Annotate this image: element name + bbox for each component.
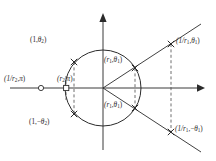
point-r1-neg-theta1: [132, 105, 138, 111]
label-1-neg-theta2: (1,−θ2): [29, 119, 49, 126]
label-r2-pi: (r2,π): [57, 76, 73, 83]
ray-lower-theta1: [103, 88, 201, 152]
point-inv-r2-pi-marker: [38, 85, 43, 90]
ray-upper-theta1: [103, 24, 201, 88]
label-r2-pi-close: ): [70, 75, 72, 83]
label-inv-r2-pi: (1/r2,π): [4, 76, 25, 83]
label-1-theta2-text: (1,: [30, 36, 38, 44]
point-inv-r1-neg-theta1: [168, 129, 174, 135]
label-inv-r1-neg-theta1-close: ): [200, 125, 202, 133]
label-inv-r1-theta1-close: ): [197, 37, 199, 45]
label-inv-r1-theta1: (1/r1,θ1): [176, 38, 200, 45]
label-inv-r2-pi-text: (1/r: [4, 75, 15, 83]
diagram-canvas: [0, 0, 216, 161]
label-inv-r1-theta1-text: (1/r: [176, 37, 187, 45]
vertical-axis: [99, 13, 106, 150]
label-r1-theta1-close: ): [120, 56, 122, 64]
label-1-theta2: (1,θ2): [30, 37, 46, 44]
label-r1-neg-theta1-close: ): [120, 101, 122, 109]
label-r1-neg-theta1: (r1,θ1): [104, 102, 122, 109]
label-inv-r1-neg-theta1: (1/r1,−θ1): [175, 126, 203, 133]
point-r2-pi-marker: [64, 85, 69, 90]
label-inv-r1-neg-theta1-text: (1/r: [175, 125, 186, 133]
label-1-neg-theta2-text: (1,−: [29, 118, 41, 126]
label-inv-r2-pi-close: ): [23, 75, 25, 83]
label-1-theta2-close: ): [44, 36, 46, 44]
polar-reciprocal-diagram: (1,θ2) (1,−θ2) (r1,θ1) (r1,θ1) (1/r1,θ1)…: [0, 0, 216, 161]
label-1-neg-theta2-close: ): [47, 118, 49, 126]
label-r1-theta1: (r1,θ1): [104, 57, 122, 64]
